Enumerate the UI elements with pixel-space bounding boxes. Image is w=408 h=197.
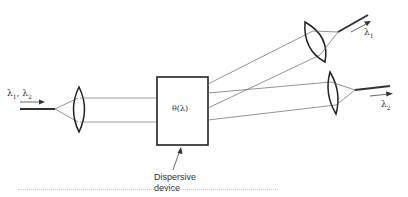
input-arrow-head [39,100,45,105]
faded-caption-line [18,189,278,193]
output-arrow-2 [370,94,389,96]
output-fiber-2 [355,86,390,90]
output-wavelength-label-2: λ2 [381,99,391,113]
device-annotation-line1: Dispersive [154,172,196,182]
device-pointer-arrow-head [178,147,183,154]
output-arrow-head-1 [364,21,371,26]
dispersion-angle-label: θ(λ) [172,104,188,114]
output-lens-1 [305,22,326,62]
diagram-canvas [0,0,408,197]
input-wavelength-label: λ1, λ2 [7,88,32,102]
input-lens [74,87,85,132]
output-lens-2 [328,72,338,114]
output-arrow-head-2 [386,92,393,97]
output-wavelength-label-1: λ1 [364,27,374,41]
